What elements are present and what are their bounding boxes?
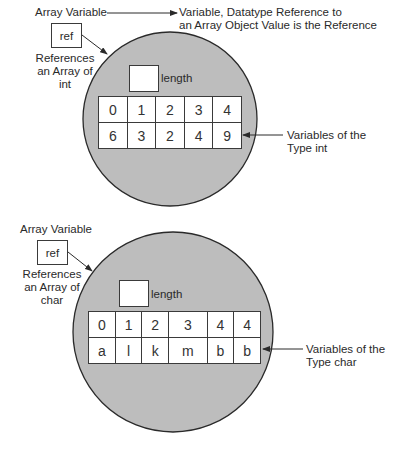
value-cell: b (207, 338, 234, 364)
value-cell: 4 (184, 123, 213, 149)
value-row: 6 3 2 4 9 (99, 123, 242, 149)
variables-caption-char: Variables of the Type char (306, 343, 385, 369)
length-box-char (119, 280, 149, 307)
index-cell: 1 (127, 97, 156, 123)
caption-line: Type int (287, 142, 366, 155)
index-cell: 2 (142, 312, 169, 338)
reference-description-line2: an Array Object Value is the Reference (179, 19, 377, 32)
index-cell: 4 (207, 312, 234, 338)
index-cell: 0 (89, 312, 116, 338)
ref-caption-line: char (12, 294, 92, 307)
char-array-table: 0 1 2 3 4 4 a l k m b b (88, 311, 261, 364)
value-row: a l k m b b (89, 338, 261, 364)
int-array-table: 0 1 2 3 4 6 3 2 4 9 (98, 96, 242, 149)
variables-caption-int: Variables of the Type int (287, 129, 366, 155)
ref-caption-line: an Array of (12, 281, 92, 294)
array-variable-label-char: Array Variable (20, 223, 92, 236)
value-cell: 9 (213, 123, 242, 149)
length-box-int (129, 65, 159, 92)
reference-description-line1: Variable, Datatype Reference to (179, 6, 342, 19)
ref-box-char: ref (37, 240, 68, 265)
value-cell: 2 (156, 123, 185, 149)
ref-box-int: ref (51, 23, 82, 48)
value-cell: a (89, 338, 116, 364)
array-variable-label-top: Array Variable (35, 6, 107, 19)
ref-caption-line: References (12, 268, 92, 281)
caption-line: Type char (306, 356, 385, 369)
index-cell: 1 (115, 312, 142, 338)
index-row: 0 1 2 3 4 4 (89, 312, 261, 338)
value-cell: 3 (127, 123, 156, 149)
value-cell: 6 (99, 123, 128, 149)
index-cell: 3 (169, 312, 207, 338)
index-cell: 4 (234, 312, 261, 338)
value-cell: b (234, 338, 261, 364)
ref-label: ref (46, 247, 59, 259)
ref-caption-line: References (25, 52, 105, 65)
index-cell: 0 (99, 97, 128, 123)
ref-caption-int: References an Array of int (25, 52, 105, 91)
ref-caption-line: an Array of (25, 65, 105, 78)
value-cell: k (142, 338, 169, 364)
value-cell: m (169, 338, 207, 364)
index-cell: 2 (156, 97, 185, 123)
index-row: 0 1 2 3 4 (99, 97, 242, 123)
ref-caption-line: int (25, 78, 105, 91)
index-cell: 4 (213, 97, 242, 123)
index-cell: 3 (184, 97, 213, 123)
length-label-int: length (161, 72, 192, 85)
value-cell: l (115, 338, 142, 364)
caption-line: Variables of the (287, 129, 366, 142)
ref-label: ref (60, 30, 73, 42)
caption-line: Variables of the (306, 343, 385, 356)
length-label-char: length (151, 288, 182, 301)
ref-caption-char: References an Array of char (12, 268, 92, 307)
